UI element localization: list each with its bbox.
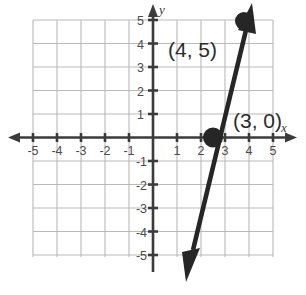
- line-arrow-down-icon: [182, 248, 200, 282]
- graph-canvas: -5 -4 -3 -2 -1 1 2 3 4 5 5 4 3 2 1 -1 -2…: [0, 0, 306, 295]
- x-tick-label-minus-4: -4: [51, 144, 62, 158]
- point-marker-4-5: [235, 12, 253, 30]
- y-tick-label-4: 4: [137, 38, 144, 52]
- y-tick-label-5: 5: [137, 14, 144, 28]
- x-axis-arrow-right-icon: [285, 133, 297, 143]
- x-tick-label-5: 5: [270, 144, 277, 158]
- y-tick-label-3: 3: [137, 61, 144, 75]
- y-axis-label: y: [157, 2, 165, 17]
- y-axis-arrow-up-icon: [148, 4, 158, 17]
- coordinate-plane-figure: -5 -4 -3 -2 -1 1 2 3 4 5 5 4 3 2 1 -1 -2…: [0, 0, 306, 295]
- x-tick-label-minus-5: -5: [27, 144, 38, 158]
- y-tick-label-minus-3: -3: [136, 202, 147, 216]
- y-tick-label-minus-5: -5: [136, 249, 147, 263]
- y-tick-label-minus-1: -1: [136, 155, 147, 169]
- x-axis-arrow-left-icon: [8, 133, 20, 143]
- x-tick-label-4: 4: [246, 144, 253, 158]
- point-label-lower: (3, 0): [233, 109, 282, 132]
- x-tick-label-minus-1: -1: [123, 144, 134, 158]
- y-tick-label-minus-2: -2: [136, 179, 147, 193]
- y-tick-label-2: 2: [137, 85, 144, 99]
- x-tick-label-minus-3: -3: [75, 144, 86, 158]
- x-tick-label-minus-2: -2: [99, 144, 110, 158]
- point-label-upper: (4, 5): [168, 38, 217, 61]
- x-tick-label-1: 1: [174, 144, 181, 158]
- y-tick-label-1: 1: [137, 108, 144, 122]
- x-tick-label-3: 3: [222, 144, 229, 158]
- x-tick-label-2: 2: [198, 144, 205, 158]
- y-tick-label-minus-4: -4: [136, 226, 147, 240]
- point-marker-3-0: [203, 128, 223, 148]
